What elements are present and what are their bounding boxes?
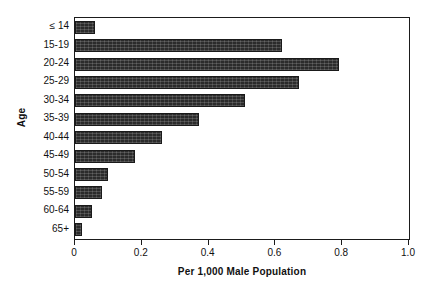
y-axis-tick-label: ≤ 14 [0,21,69,31]
bar [75,76,299,89]
x-axis-tick [208,240,209,245]
bar [75,168,108,181]
bar [75,21,95,34]
y-axis-tick-label: 25-29 [0,76,69,86]
x-axis-tick-label: 0 [54,247,94,259]
bar [75,223,82,236]
bar [75,39,282,52]
y-axis-tick-label: 65+ [0,224,69,234]
bar [75,58,339,71]
x-axis-title: Per 1,000 Male Population [74,266,410,277]
bar [75,205,92,218]
y-axis-tick-label: 35-39 [0,113,69,123]
x-axis-tick [408,240,409,245]
y-axis-tick-label: 15-19 [0,40,69,50]
y-axis-tick-label: 60-64 [0,205,69,215]
y-axis-tick-labels: ≤ 1415-1920-2425-2930-3435-3940-4445-495… [0,17,69,240]
x-axis-tick-label: 0.2 [121,247,161,259]
x-axis-tick-label: 0.8 [321,247,361,259]
y-axis-tick-label: 50-54 [0,169,69,179]
y-axis-tick-label: 45-49 [0,150,69,160]
bars-layer [75,18,409,239]
bar [75,186,102,199]
x-axis-ticks [74,240,410,246]
bar [75,94,245,107]
x-axis-tick-label: 0.4 [188,247,228,259]
y-axis-tick-label: 40-44 [0,132,69,142]
x-axis-tick-label: 0.6 [254,247,294,259]
bar [75,131,162,144]
bar [75,150,135,163]
x-axis-tick-labels: 00.20.40.60.81.0 [0,247,424,261]
bar-chart: Age ≤ 1415-1920-2425-2930-3435-3940-4445… [0,0,424,289]
x-axis-tick [74,240,75,245]
y-axis-tick-label: 30-34 [0,95,69,105]
y-axis-tick-label: 20-24 [0,58,69,68]
x-axis-tick [141,240,142,245]
x-axis-tick [341,240,342,245]
x-axis-tick-label: 1.0 [388,247,424,259]
y-axis-tick-label: 55-59 [0,187,69,197]
x-axis-tick [274,240,275,245]
bar [75,113,199,126]
